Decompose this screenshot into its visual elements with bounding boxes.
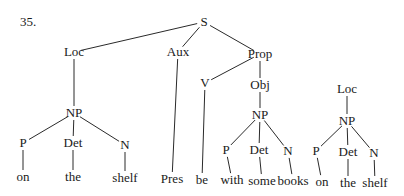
- tree-edge: [202, 90, 205, 173]
- node-det-left: Det: [64, 135, 83, 150]
- tree-edge: [227, 157, 230, 173]
- leaf-shelf-left: shelf: [112, 170, 138, 185]
- node-det-right: Det: [339, 144, 358, 159]
- node-S: S: [200, 14, 207, 29]
- node-np-right: NP: [339, 113, 356, 128]
- node-v: V: [200, 75, 210, 90]
- tree-edge: [289, 158, 292, 174]
- leaf-pres: Pres: [161, 171, 183, 186]
- node-prop: Prop: [248, 46, 273, 61]
- leaf-on-right: on: [316, 174, 330, 189]
- node-loc-left: Loc: [64, 44, 84, 59]
- leaf-books: books: [277, 173, 308, 188]
- tree-edge: [260, 157, 262, 174]
- node-obj: Obj: [250, 77, 270, 92]
- node-n-middle: N: [283, 143, 293, 158]
- node-aux: Aux: [167, 44, 190, 59]
- node-p-left: P: [19, 135, 26, 150]
- tree-edge: [317, 158, 320, 175]
- tree-edge: [29, 117, 68, 140]
- node-np-left: NP: [66, 105, 83, 120]
- leaf-be: be: [196, 172, 209, 187]
- node-p-right: P: [312, 143, 319, 158]
- node-n-left: N: [120, 137, 130, 152]
- tree-edge: [73, 120, 74, 136]
- tree-edge: [172, 59, 177, 172]
- example-number: 35.: [20, 14, 36, 29]
- tree-edge: [347, 128, 348, 145]
- leaf-the-right: the: [340, 175, 356, 190]
- syntax-tree: 35. S Loc Aux Prop V Obj Loc NP NP NP P …: [0, 0, 404, 196]
- tree-edge: [259, 122, 260, 143]
- leaf-some: some: [248, 173, 276, 188]
- leaf-with: with: [220, 172, 244, 187]
- node-n-right: N: [369, 145, 379, 160]
- tree-edge: [80, 117, 119, 142]
- node-p-middle: P: [222, 142, 229, 157]
- node-det-middle: Det: [250, 142, 269, 157]
- leaf-shelf-right: shelf: [362, 175, 388, 190]
- leaf-on-left: on: [17, 169, 31, 184]
- node-loc-right: Loc: [337, 81, 357, 96]
- leaf-the-left: the: [65, 169, 81, 184]
- tree-edge: [374, 160, 375, 176]
- node-np-middle: NP: [252, 107, 269, 122]
